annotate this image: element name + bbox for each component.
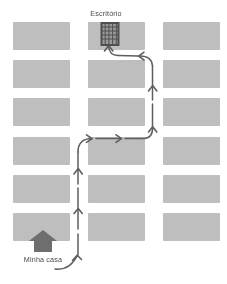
route-arrowhead-right-vertical [149,86,157,91]
city-block-r3-c1 [13,98,70,126]
city-map: Escritório Minha casa [0,0,227,284]
city-block-r1-c1 [13,22,70,50]
office-building-icon [99,21,121,50]
city-block-r2-c2 [88,60,145,88]
city-block-r2-c3 [163,60,220,88]
route-arrowhead-start [73,255,82,260]
city-block-r6-c3 [163,213,220,241]
city-block-r3-c2 [88,98,145,126]
city-block-r6-c2 [88,213,145,241]
route-arrowhead-turn-left [139,52,144,60]
city-block-r2-c1 [13,60,70,88]
city-block-r4-c3 [163,137,220,165]
route-arrowhead-left-upper [74,169,82,174]
city-block-r4-c1 [13,137,70,165]
city-block-r5-c1 [13,175,70,203]
city-block-r5-c2 [88,175,145,203]
route-segment-turn-up [144,127,153,139]
origin-label: Minha casa [13,255,73,264]
route-arrowhead-left-lower [74,208,82,213]
route-arrowhead-turn-up [149,127,157,132]
route-segment-office-approach [118,56,138,57]
destination-label: Escritório [76,9,136,18]
house-icon [28,228,58,258]
city-block-r4-c2 [88,137,145,165]
city-block-r3-c3 [163,98,220,126]
city-block-r5-c3 [163,175,220,203]
city-block-r1-c3 [163,22,220,50]
